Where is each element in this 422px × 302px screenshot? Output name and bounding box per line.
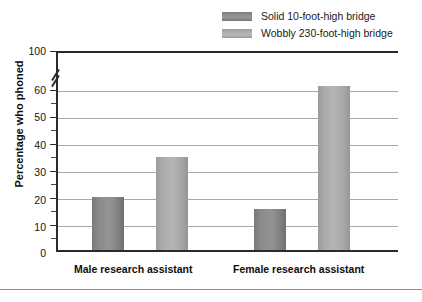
y-axis-tick-labels: 100 60 50 40 30 20 10 0 (0, 0, 54, 302)
y-tick-label-10: 10 (0, 222, 46, 232)
bar-male-solid-bridge (92, 197, 124, 250)
x-tick-label-male-research-assistant: Male research assistant (74, 263, 192, 275)
y-tick-label-40: 40 (0, 140, 46, 150)
chart-figure: Solid 10-foot-high bridge Wobbly 230-foo… (0, 0, 422, 302)
bar-female-wobbly-bridge (318, 86, 350, 250)
y-tick-label-60: 60 (0, 85, 46, 95)
legend-item-wobbly-bridge: Wobbly 230-foot-high bridge (222, 26, 393, 40)
legend-swatch-wobbly-bridge-icon (222, 29, 252, 38)
bottom-divider (0, 289, 422, 290)
plot-area (56, 51, 398, 252)
legend-label-solid-bridge: Solid 10-foot-high bridge (261, 11, 375, 22)
legend-swatch-solid-bridge-icon (222, 12, 252, 21)
y-tick-label-50: 50 (0, 112, 46, 122)
x-tick-label-female-research-assistant: Female research assistant (233, 263, 364, 275)
y-tick-label-30: 30 (0, 167, 46, 177)
legend-item-solid-bridge: Solid 10-foot-high bridge (222, 9, 393, 23)
bar-male-wobbly-bridge (156, 157, 188, 250)
legend-label-wobbly-bridge: Wobbly 230-foot-high bridge (261, 28, 393, 39)
y-tick-label-20: 20 (0, 195, 46, 205)
bar-female-solid-bridge (254, 209, 286, 250)
y-tick-label-100: 100 (0, 46, 46, 56)
chart-legend: Solid 10-foot-high bridge Wobbly 230-foo… (222, 9, 393, 43)
y-tick-label-0: 0 (0, 248, 46, 258)
